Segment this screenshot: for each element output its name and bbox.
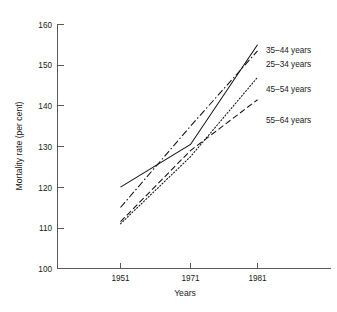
- legend: 35–44 years 25–34 years 45–54 years 55–6…: [266, 46, 311, 125]
- x-axis-ticks: [121, 263, 258, 269]
- y-tick-label-140: 140: [38, 102, 52, 111]
- y-tick-label-100: 100: [38, 265, 52, 274]
- y-tick-label-120: 120: [38, 184, 52, 193]
- x-tick-label-1951: 1951: [111, 274, 130, 283]
- legend-label-45-54: 45–54 years: [266, 85, 311, 94]
- mortality-rate-line-chart: 160 150 140 130 120 110 100 1951 1971 19…: [0, 0, 337, 312]
- x-tick-label-1981: 1981: [248, 274, 267, 283]
- series-line-45-54: [121, 77, 258, 223]
- y-tick-label-130: 130: [38, 143, 52, 152]
- legend-label-55-64: 55–64 years: [266, 116, 311, 125]
- x-tick-label-1971: 1971: [181, 274, 200, 283]
- y-axis-ticks: [58, 25, 64, 229]
- legend-label-35-44: 35–44 years: [266, 46, 311, 55]
- x-axis-title: Years: [174, 288, 196, 298]
- y-tick-label-110: 110: [39, 224, 52, 233]
- y-tick-label-150: 150: [38, 61, 52, 70]
- series-line-25-34: [121, 51, 258, 208]
- legend-label-25-34: 25–34 years: [266, 60, 311, 69]
- x-axis-tick-labels: 1951 1971 1981: [111, 274, 267, 283]
- chart-canvas: 160 150 140 130 120 110 100 1951 1971 19…: [0, 0, 337, 312]
- y-axis-title: Mortality rate (per cent): [14, 101, 24, 190]
- y-axis-tick-labels: 160 150 140 130 120 110 100: [38, 21, 52, 274]
- y-tick-label-160: 160: [38, 21, 52, 30]
- series-line-35-44: [121, 45, 258, 187]
- series-group: [121, 45, 258, 224]
